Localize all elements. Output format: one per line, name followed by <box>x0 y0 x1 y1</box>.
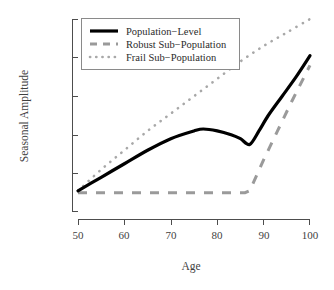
x-tick-label: 70 <box>166 229 178 241</box>
x-axis: 50 60 70 80 90 100 Age <box>73 220 319 274</box>
x-axis-title: Age <box>181 260 200 273</box>
chart-figure: Seasonal Amplitude 50 60 70 80 90 100 Ag… <box>0 0 334 290</box>
y-axis-title: Seasonal Amplitude <box>18 70 31 162</box>
x-tick-label: 90 <box>259 229 271 241</box>
x-tick-label: 100 <box>302 229 319 241</box>
chart-canvas: Seasonal Amplitude 50 60 70 80 90 100 Ag… <box>0 0 334 290</box>
x-tick-label: 60 <box>119 229 131 241</box>
legend-label-population-level: Population−Level <box>126 26 201 37</box>
x-tick-label: 50 <box>73 229 85 241</box>
legend-label-frail-sub-population: Frail Sub−Population <box>126 52 217 63</box>
series-line-population-level <box>78 56 310 191</box>
y-axis: Seasonal Amplitude <box>18 19 78 212</box>
x-tick-label: 80 <box>212 229 224 241</box>
legend: Population−Level Robust Sub−Population F… <box>82 19 240 70</box>
series-line-robust-sub-population <box>78 65 310 192</box>
legend-label-robust-sub-population: Robust Sub−Population <box>126 39 227 50</box>
